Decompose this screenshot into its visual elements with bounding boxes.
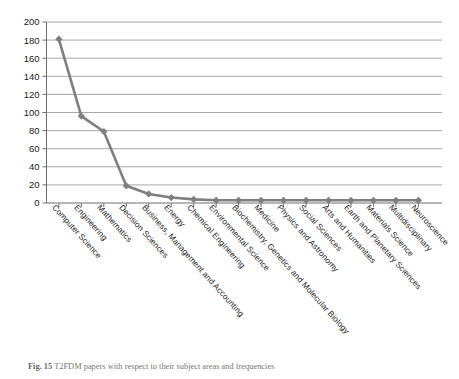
data-point-marker xyxy=(168,194,175,201)
series-markers-group xyxy=(55,36,422,204)
figure-caption: Fig. 15 T2FDM papers with respect to the… xyxy=(28,362,432,373)
chart-plot-area: 020406080100120140160180200 xyxy=(0,0,459,215)
data-point-marker xyxy=(145,190,152,197)
y-axis-tick-label: 140 xyxy=(24,71,40,82)
y-axis-tick-label: 200 xyxy=(24,16,40,27)
y-axis-ticks-group: 020406080100120140160180200 xyxy=(24,16,47,208)
figure-caption-label: Fig. 15 xyxy=(28,362,52,371)
y-axis-tick-label: 100 xyxy=(24,107,40,118)
y-axis-tick-label: 120 xyxy=(24,89,40,100)
data-point-marker xyxy=(55,36,62,43)
y-axis-tick-label: 180 xyxy=(24,35,40,46)
gridlines-group xyxy=(47,22,443,185)
y-axis-tick-label: 40 xyxy=(29,161,40,172)
y-axis-tick-label: 80 xyxy=(29,125,40,136)
figure-caption-text: T2FDM papers with respect to their subje… xyxy=(54,362,274,371)
data-point-marker xyxy=(123,182,130,189)
series-line xyxy=(59,39,419,200)
figure-container: 020406080100120140160180200 Computer Sci… xyxy=(0,0,459,379)
line-chart-svg: 020406080100120140160180200 xyxy=(0,0,459,215)
y-axis-tick-label: 160 xyxy=(24,53,40,64)
y-axis-tick-label: 60 xyxy=(29,143,40,154)
x-axis-category-labels: Computer ScienceEngineeringMathematicsDe… xyxy=(0,203,459,343)
y-axis-tick-label: 20 xyxy=(29,179,40,190)
